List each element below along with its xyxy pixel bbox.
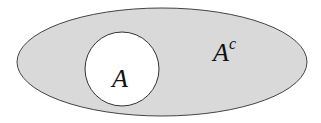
complement-label-base: A bbox=[211, 38, 229, 67]
complement-label-superscript: c bbox=[229, 35, 236, 52]
set-a-label: A bbox=[110, 64, 128, 93]
venn-diagram: A Ac bbox=[0, 0, 321, 123]
complement-region bbox=[17, 8, 307, 116]
